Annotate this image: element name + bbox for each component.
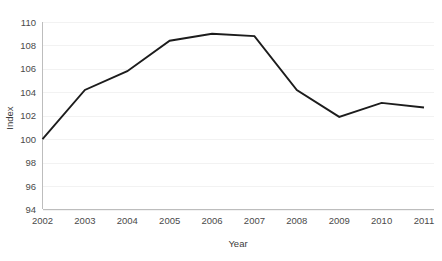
x-axis-title: Year bbox=[228, 238, 247, 249]
y-tick-label-110: 110 bbox=[21, 17, 36, 28]
x-tick-label-2003: 2003 bbox=[74, 215, 95, 226]
x-tick-label-2005: 2005 bbox=[159, 215, 180, 226]
y-tick-label-100: 100 bbox=[20, 134, 36, 145]
line-chart: 949698100102104106108110 200220032004200… bbox=[0, 0, 442, 261]
y-tick-label-106: 106 bbox=[20, 63, 36, 74]
chart-canvas: 949698100102104106108110 200220032004200… bbox=[0, 0, 442, 261]
x-tick-label-2008: 2008 bbox=[286, 215, 307, 226]
x-tick-label-2011: 2011 bbox=[414, 215, 434, 226]
y-tick-label-102: 102 bbox=[20, 110, 36, 121]
x-tick-label-2006: 2006 bbox=[201, 215, 222, 226]
y-tick-label-104: 104 bbox=[20, 87, 36, 98]
y-tick-label-96: 96 bbox=[25, 181, 36, 192]
y-tick-label-98: 98 bbox=[25, 157, 36, 168]
x-tick-label-2004: 2004 bbox=[117, 215, 138, 226]
y-tick-label-94: 94 bbox=[25, 204, 36, 215]
y-tick-label-108: 108 bbox=[20, 40, 36, 51]
x-tick-label-2002: 2002 bbox=[32, 215, 53, 226]
x-tick-label-2007: 2007 bbox=[244, 215, 265, 226]
y-axis-title: Index bbox=[4, 106, 15, 129]
x-tick-label-2010: 2010 bbox=[371, 215, 392, 226]
x-tick-label-2009: 2009 bbox=[329, 215, 350, 226]
